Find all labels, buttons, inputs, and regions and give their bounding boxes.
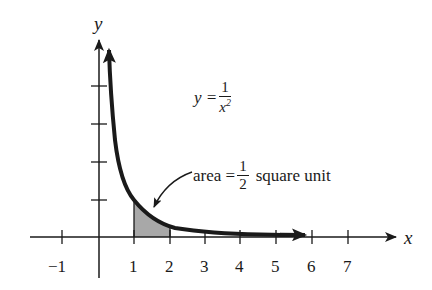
annotation-fraction: 1 2 <box>237 159 249 192</box>
x-tick-label-6: 6 <box>307 258 316 275</box>
equation-denominator-base: x <box>219 99 226 115</box>
graph-figure <box>0 0 432 290</box>
equation-denominator: x2 <box>219 97 231 116</box>
x-tick-label-7: 7 <box>343 258 352 275</box>
equation-label: y = 1 x2 <box>194 80 233 115</box>
y-axis-label: y <box>94 14 102 33</box>
annotation-prefix: area = <box>193 167 235 184</box>
curve-upper-arrow <box>109 50 115 140</box>
x-tick-label-2: 2 <box>165 258 174 275</box>
annotation-suffix: square unit <box>256 167 331 184</box>
x-tick-label-3: 3 <box>200 258 209 275</box>
annotation-numerator: 1 <box>237 159 249 176</box>
x-tick-label-4: 4 <box>235 258 244 275</box>
x-axis-label: x <box>404 228 412 247</box>
equation-numerator: 1 <box>219 80 231 97</box>
annotation-denominator: 2 <box>239 176 247 193</box>
equation-fraction: 1 x2 <box>219 80 231 115</box>
x-tick-label-1: 1 <box>129 258 138 275</box>
equation-exponent: 2 <box>226 97 231 108</box>
area-annotation: area = 1 2 square unit <box>193 159 331 192</box>
x-tick-label-5: 5 <box>271 258 280 275</box>
annotation-leader-arrow <box>154 172 192 207</box>
x-tick-label-neg1: −1 <box>48 258 66 275</box>
equation-lhs: y = <box>194 89 217 106</box>
